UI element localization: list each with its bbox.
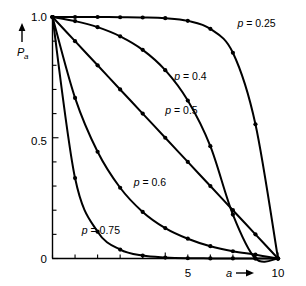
data-point — [163, 255, 167, 259]
x-axis-title: a — [226, 267, 232, 279]
curve-annotations-layer: p = 0.25p = 0.4p = 0.5p = 0.6p = 0.75 — [81, 17, 276, 237]
data-point — [50, 15, 54, 19]
data-point — [96, 150, 100, 154]
up-arrow-icon — [19, 23, 26, 42]
data-point — [96, 63, 100, 67]
data-point — [118, 186, 122, 190]
curve-label: p = 0.75 — [81, 224, 120, 236]
curve-label: p = 0.4 — [173, 70, 207, 82]
data-point — [73, 96, 77, 100]
data-point — [186, 19, 190, 23]
curve-label: p = 0.6 — [133, 176, 167, 188]
data-point — [141, 210, 145, 214]
data-point — [163, 68, 167, 72]
data-point — [118, 247, 122, 251]
data-point — [231, 208, 235, 212]
chart-figure: 1.0 0.5 0 5 10 P a a p = 0.25p — [0, 0, 306, 286]
data-point — [231, 51, 235, 55]
data-point — [141, 112, 145, 116]
data-point — [163, 226, 167, 230]
data-point — [73, 39, 77, 43]
data-point — [231, 249, 235, 253]
x-axis-title-group: a — [226, 267, 254, 279]
data-point — [186, 98, 190, 102]
data-point — [253, 256, 257, 260]
y-tick-label-0: 0 — [41, 253, 47, 265]
data-point — [73, 176, 77, 180]
data-point — [208, 184, 212, 188]
data-point — [73, 19, 77, 23]
x-tick-label-5: 5 — [185, 267, 191, 279]
data-point — [253, 253, 257, 257]
y-tick-label-1.0: 1.0 — [31, 11, 47, 23]
data-point — [276, 256, 280, 260]
data-point — [141, 15, 145, 19]
curve-label: p = 0.5 — [164, 104, 198, 116]
data-point — [73, 15, 77, 19]
curve-label: p = 0.25 — [236, 17, 275, 29]
data-point — [118, 15, 122, 19]
data-point — [141, 48, 145, 52]
data-point — [96, 25, 100, 29]
data-point — [163, 16, 167, 20]
data-point — [118, 87, 122, 91]
data-point — [208, 244, 212, 248]
data-point — [253, 122, 257, 126]
data-point — [186, 237, 190, 241]
data-point — [231, 212, 235, 216]
x-tick-label-10: 10 — [272, 267, 285, 279]
data-point — [118, 34, 122, 38]
data-point — [208, 144, 212, 148]
data-point — [186, 160, 190, 164]
data-point — [253, 232, 257, 236]
y-axis-title-subscript: a — [24, 52, 29, 61]
gamblers-ruin-line-chart: 1.0 0.5 0 5 10 P a a p = 0.25p — [0, 0, 306, 286]
data-point — [208, 256, 212, 260]
y-tick-label-0.5: 0.5 — [31, 135, 47, 147]
data-point — [163, 136, 167, 140]
data-point — [208, 27, 212, 31]
data-point — [141, 254, 145, 258]
data-point — [186, 256, 190, 260]
y-axis-title-group: P a — [17, 23, 29, 61]
right-arrow-icon — [236, 270, 254, 277]
data-point — [96, 15, 100, 19]
data-point — [231, 256, 235, 260]
